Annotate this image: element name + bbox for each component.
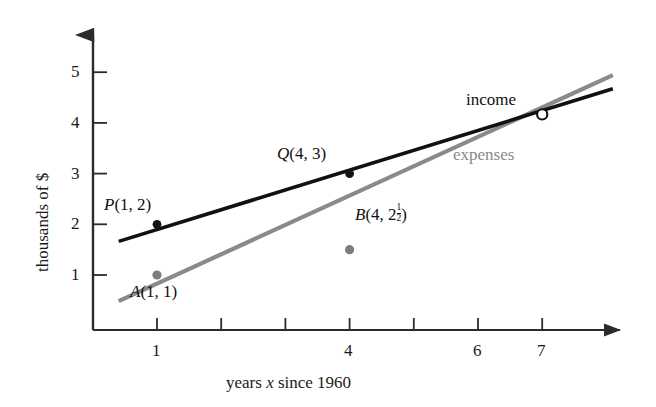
point-label-P: P(1, 2)	[104, 196, 151, 213]
plot-area	[0, 0, 656, 407]
x-tick-label-7: 7	[537, 342, 546, 359]
point-label-Q-name: Q	[277, 144, 289, 163]
y-tick-label-5: 5	[71, 63, 80, 80]
series-label-expenses: expenses	[453, 146, 514, 163]
expenses-line	[119, 75, 613, 301]
y-tick-label-3: 3	[71, 165, 80, 182]
intersection-point	[537, 109, 547, 119]
y-tick-label-1: 1	[71, 266, 80, 283]
x-tick-label-1: 1	[152, 342, 161, 359]
y-axis-ticks	[93, 72, 107, 275]
point-label-B-coords-before: (4, 2	[365, 205, 396, 224]
y-axis-title: thousands of $	[34, 173, 51, 272]
x-axis-title-prefix: years	[226, 373, 262, 392]
x-axis-title: years x since 1960	[226, 374, 351, 391]
x-axis-title-variable: x	[266, 373, 274, 392]
point-label-A: A(1, 1)	[130, 283, 177, 300]
point-label-P-name: P	[104, 195, 114, 214]
point-label-Q: Q(4, 3)	[277, 145, 326, 162]
point-label-A-coords: (1, 1)	[140, 282, 177, 301]
y-tick-label-2: 2	[71, 215, 80, 232]
point-label-B-name: B	[355, 205, 365, 224]
point-A	[152, 270, 161, 279]
point-B	[345, 245, 354, 254]
point-label-B: B(4, 212)	[355, 203, 407, 223]
point-label-A-name: A	[130, 282, 140, 301]
point-label-B-coords-after: )	[401, 205, 407, 224]
line-graph-figure: 1 2 3 4 5 1 4 6 7 years x since 1960 tho…	[0, 0, 656, 407]
y-tick-label-4: 4	[71, 114, 80, 131]
series-label-income: income	[466, 91, 516, 108]
point-P	[153, 220, 162, 229]
fraction-denominator: 2	[397, 213, 402, 224]
x-tick-label-6: 6	[473, 342, 482, 359]
x-axis-title-suffix: since 1960	[278, 373, 351, 392]
point-label-B-fraction: 12	[397, 203, 402, 223]
point-label-Q-coords: (4, 3)	[289, 144, 326, 163]
point-label-P-coords: (1, 2)	[114, 195, 151, 214]
point-Q	[345, 169, 354, 178]
x-axis-ticks	[157, 318, 542, 330]
x-tick-label-4: 4	[344, 342, 353, 359]
fraction-numerator: 1	[397, 203, 402, 213]
